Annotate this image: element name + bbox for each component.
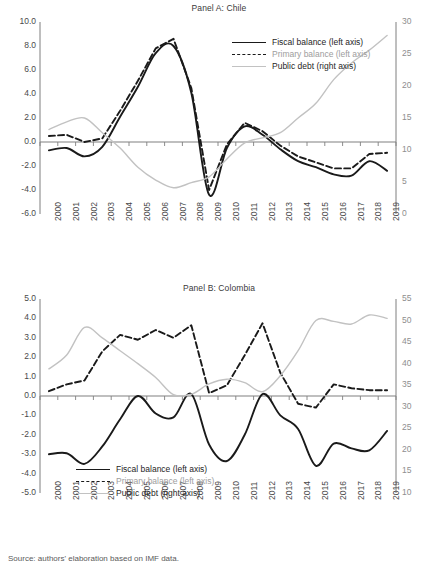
x-axis-tick-label: 2017 [356,481,366,500]
legend-label-fiscal: Fiscal balance (left axis) [116,463,207,475]
left-axis-tick-label: 5.0 [2,294,36,303]
x-axis-tick-label: 2010 [231,481,241,500]
right-axis-tick-label: 25 [402,49,428,58]
right-axis-tick-label: 45 [402,337,428,346]
panel-b-plot [0,280,438,561]
x-axis-tick-label: 2000 [53,202,63,221]
right-axis-tick-label: 15 [402,466,428,475]
left-axis-tick-label: -6.0 [2,209,36,218]
right-axis-tick-label: 50 [402,316,428,325]
x-axis-tick-label: 2008 [195,202,205,221]
legend-item-fiscal[interactable]: Fiscal balance (left axis) [232,36,370,48]
panel-b-legend: Fiscal balance (left axis) Primary balan… [76,463,214,499]
x-axis-tick-label: 2013 [284,202,294,221]
x-axis-tick-label: 2010 [231,202,241,221]
left-axis-tick-label: -3.0 [2,449,36,458]
right-axis-tick-label: 20 [402,445,428,454]
right-axis-tick-label: 30 [402,17,428,26]
legend-item-fiscal[interactable]: Fiscal balance (left axis) [76,463,214,475]
left-axis-tick-label: -4.0 [2,469,36,478]
x-axis-tick-label: 2012 [267,202,277,221]
legend-swatch-dashed-line-icon [232,49,266,59]
left-axis-tick-label: 4.0 [2,313,36,322]
x-axis-tick-label: 2019 [391,481,401,500]
right-axis-tick-label: 25 [402,423,428,432]
left-axis-tick-label: 1.0 [2,372,36,381]
left-axis-tick-label: 6.0 [2,65,36,74]
x-axis-tick-label: 2006 [160,202,170,221]
left-axis-tick-label: 2.0 [2,352,36,361]
panel-a-legend: Fiscal balance (left axis) Primary balan… [232,36,370,72]
right-axis-tick-label: 20 [402,81,428,90]
x-axis-tick-label: 2018 [373,202,383,221]
right-axis-tick-label: 15 [402,113,428,122]
left-axis-tick-label: 8.0 [2,41,36,50]
x-axis-tick-label: 2017 [356,202,366,221]
legend-swatch-dashed-line-icon [76,476,110,486]
x-axis-tick-label: 2015 [320,202,330,221]
left-axis-tick-label: -2.0 [2,161,36,170]
x-axis-tick-label: 2016 [338,481,348,500]
left-axis-tick-label: 4.0 [2,89,36,98]
x-axis-tick-label: 2001 [71,202,81,221]
panel-b-colombia: Panel B: Colombia 5.04.03.02.01.00.0-1.0… [0,280,438,561]
legend-label-primary: Primary balance (left axis) [272,48,370,60]
legend-swatch-light-line-icon [76,488,110,498]
right-axis-tick-label: 5 [402,177,428,186]
left-axis-tick-label: -1.0 [2,410,36,419]
x-axis-tick-label: 2007 [178,202,188,221]
right-axis-tick-label: 10 [402,488,428,497]
x-axis-tick-label: 2011 [249,203,259,221]
x-axis-tick-label: 2014 [302,202,312,221]
x-axis-tick-label: 2018 [373,481,383,500]
x-axis-tick-label: 2002 [89,202,99,221]
legend-label-debt: Public debt (right axis) [272,60,356,72]
x-axis-tick-label: 2014 [302,481,312,500]
x-axis-tick-label: 2009 [213,202,223,221]
right-axis-tick-label: 10 [402,145,428,154]
right-axis-tick-label: 0 [402,209,428,218]
figure-caption: Source: authors' elaboration based on IM… [8,554,179,561]
legend-item-debt[interactable]: Public debt (right axis) [76,487,214,499]
x-axis-tick-label: 2009 [213,481,223,500]
series-line-fiscal [49,394,387,467]
left-axis-tick-label: -4.0 [2,185,36,194]
x-axis-tick-label: 2019 [391,202,401,221]
legend-item-primary[interactable]: Primary balance (left axis) [232,48,370,60]
left-axis-tick-label: 2.0 [2,113,36,122]
left-axis-tick-label: 0.0 [2,137,36,146]
legend-label-fiscal: Fiscal balance (left axis) [272,36,363,48]
left-axis-tick-label: -5.0 [2,488,36,497]
left-axis-tick-label: 10.0 [2,17,36,26]
left-axis-tick-label: 3.0 [2,333,36,342]
x-axis-tick-label: 2012 [267,481,277,500]
right-axis-tick-label: 35 [402,380,428,389]
x-axis-tick-label: 2004 [124,202,134,221]
left-axis-tick-label: -2.0 [2,430,36,439]
x-axis-tick-label: 2016 [338,202,348,221]
x-axis-tick-label: 2015 [320,481,330,500]
legend-swatch-solid-line-icon [232,37,266,47]
x-axis-tick-label: 2000 [53,481,63,500]
x-axis-tick-label: 2003 [106,202,116,221]
legend-label-primary: Primary balance (left axis) [116,475,214,487]
legend-swatch-light-line-icon [232,61,266,71]
x-axis-tick-label: 2013 [284,481,294,500]
legend-item-primary[interactable]: Primary balance (left axis) [76,475,214,487]
x-axis-tick-label: 2005 [142,202,152,221]
right-axis-tick-label: 40 [402,359,428,368]
right-axis-tick-label: 30 [402,402,428,411]
legend-label-debt: Public debt (right axis) [116,487,200,499]
panel-a-chile: Panel A: Chile 10.08.06.04.02.00.0-2.0-4… [0,0,438,280]
panel-a-plot [0,0,438,280]
x-axis-tick-label: 2011 [249,482,259,500]
left-axis-tick-label: 0.0 [2,391,36,400]
right-axis-tick-label: 55 [402,294,428,303]
legend-item-debt[interactable]: Public debt (right axis) [232,60,370,72]
legend-swatch-solid-line-icon [76,464,110,474]
